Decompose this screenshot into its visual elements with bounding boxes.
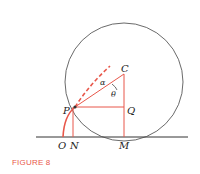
diagram: C α θ P Q O N M bbox=[0, 0, 200, 174]
figure-caption: FIGURE 8 bbox=[12, 158, 51, 167]
figure: C α θ P Q O N M FIGURE 8 bbox=[0, 0, 200, 174]
label-alpha: α bbox=[100, 78, 106, 87]
label-Q: Q bbox=[127, 105, 135, 116]
label-C: C bbox=[121, 63, 129, 74]
label-theta: θ bbox=[111, 90, 116, 99]
point-P bbox=[73, 105, 76, 108]
label-O: O bbox=[58, 140, 66, 151]
label-N: N bbox=[69, 140, 80, 151]
label-P: P bbox=[62, 105, 70, 116]
label-M: M bbox=[118, 140, 130, 151]
